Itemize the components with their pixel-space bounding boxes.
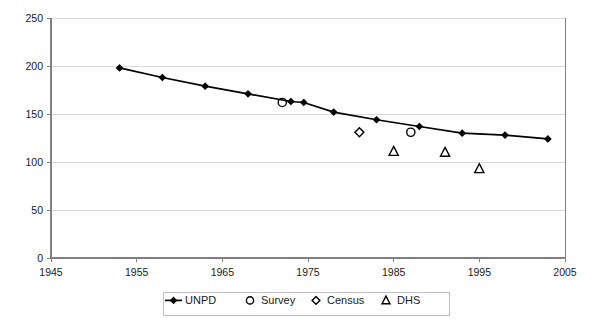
line-chart: 0501001502002501945195519651975198519952…: [0, 0, 608, 328]
series-dhs: [389, 146, 484, 172]
series-line: [120, 68, 548, 139]
x-tick-label: 1995: [468, 266, 492, 278]
marker-point: [245, 91, 251, 97]
marker-triangle: [389, 146, 398, 155]
y-tick-label: 200: [25, 60, 43, 72]
marker-point: [202, 83, 208, 89]
y-tick-label: 150: [25, 108, 43, 120]
marker-point: [459, 130, 465, 136]
y-tick-label: 0: [37, 252, 43, 264]
legend-item-label: Survey: [261, 294, 296, 306]
x-tick-label: 1985: [382, 266, 406, 278]
marker-point: [374, 117, 380, 123]
marker-circle: [407, 128, 415, 136]
marker-point: [545, 136, 551, 142]
series-survey: [278, 98, 415, 136]
x-tick-label: 1955: [125, 266, 149, 278]
y-tick-label: 50: [31, 204, 43, 216]
x-tick-label: 1965: [211, 266, 235, 278]
marker-point: [288, 99, 294, 105]
series-census: [355, 128, 364, 137]
legend-item-label: Census: [327, 294, 365, 306]
marker-triangle: [475, 164, 484, 173]
y-tick-label: 250: [25, 12, 43, 24]
marker-point: [301, 99, 307, 105]
y-tick-label: 100: [25, 156, 43, 168]
chart-container: 0501001502002501945195519651975198519952…: [0, 0, 608, 328]
x-tick-label: 1945: [39, 266, 63, 278]
series-unpd: [117, 65, 551, 142]
marker-point: [502, 132, 508, 138]
marker-point: [416, 123, 422, 129]
marker-triangle: [440, 147, 449, 156]
legend-item-label: UNPD: [185, 294, 216, 306]
marker-diamond: [355, 128, 364, 137]
x-tick-label: 1975: [296, 266, 320, 278]
x-tick-label: 2005: [553, 266, 577, 278]
marker-point: [159, 75, 165, 81]
legend-item-label: DHS: [397, 294, 420, 306]
